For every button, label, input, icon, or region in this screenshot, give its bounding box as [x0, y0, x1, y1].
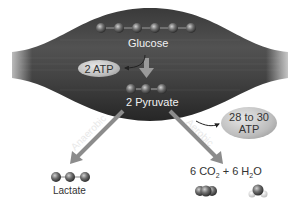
- metabolism-diagram: Glucose 2 ATP 2 Pyruvate Anaerobic Aerob…: [0, 0, 298, 204]
- pyruvate-molecule-icon: [126, 84, 167, 94]
- lactate-label: Lactate: [53, 185, 86, 196]
- pyruvate-label: 2 Pyruvate: [126, 96, 179, 108]
- aerobic-products-label: 6 CO2 + 6 H2O: [190, 165, 262, 179]
- co2-text: 6 CO: [190, 165, 216, 177]
- h2o-text: + 6 H: [220, 165, 250, 177]
- atp-glycolysis-label: 2 ATP: [84, 63, 113, 75]
- h2o-molecule-icon: [249, 185, 268, 198]
- atp-aerobic-line2: ATP: [239, 123, 260, 135]
- atp-glycolysis-badge: 2 ATP: [78, 60, 120, 77]
- co2-molecule-icon: [195, 185, 217, 196]
- atp-aerobic-line1: 28 to 30: [229, 111, 269, 123]
- atp-aerobic-badge: 28 to 30 ATP: [221, 107, 277, 139]
- glucose-label: Glucose: [128, 37, 168, 49]
- h2o-suffix: O: [253, 165, 262, 177]
- lactate-molecule-icon: [51, 172, 90, 182]
